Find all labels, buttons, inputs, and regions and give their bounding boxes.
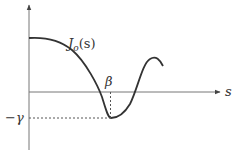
gamma-label: −γ xyxy=(5,110,24,125)
curve-label: Jo(s) xyxy=(65,36,95,53)
s-axis-label: s xyxy=(225,84,232,99)
beta-label: β xyxy=(104,74,113,89)
bessel-function-diagram: Jo(s) β −γ s xyxy=(0,0,242,156)
bessel-curve xyxy=(29,38,163,118)
